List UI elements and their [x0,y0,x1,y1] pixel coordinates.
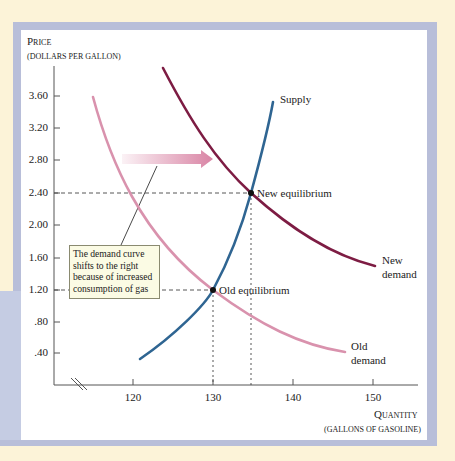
y-axis-title: Price [27,35,51,47]
axis-break-icon [71,378,87,390]
old-demand-label-line1: Old [351,339,386,353]
old-demand-label-line2: demand [351,353,386,367]
old-demand-label: Old demand [351,339,386,367]
x-tick-label: 140 [278,391,308,403]
x-tick-label: 150 [358,391,388,403]
demand-shift-callout: The demand curve shifts to the right bec… [69,245,160,299]
x-tick-label: 130 [198,391,228,403]
x-ticks [133,379,373,385]
old-equilibrium-point [210,287,216,293]
x-tick-label: 120 [118,391,148,403]
y-tick-label: 1.60 [8,251,48,263]
y-tick-label: 2.00 [8,218,48,230]
y-tick-label: 3.60 [8,89,48,101]
x-axis-subtitle: (GALLONS OF GASOLINE) [324,425,421,434]
new-demand-label: New demand [382,253,417,281]
y-tick-label: 1.20 [8,283,48,295]
new-demand-curve [163,68,375,266]
new-equilibrium-label: New equilibrium [257,186,332,200]
shift-right-arrow [122,150,213,168]
y-axis-subtitle: (DOLLARS PER GALLON) [27,52,121,61]
new-demand-label-line1: New [382,253,417,267]
supply-label: Supply [280,92,311,106]
callout-leader-line [121,166,157,245]
y-ticks [54,96,60,353]
y-tick-label: 2.80 [8,153,48,165]
old-equilibrium-label: Old equilibrium [219,283,290,297]
y-tick-label: .40 [8,346,48,358]
x-axis-title: Quantity [374,408,418,420]
new-equilibrium-point [248,190,254,196]
y-tick-label: 3.20 [8,121,48,133]
y-tick-label: 2.40 [8,186,48,198]
y-tick-label: .80 [8,315,48,327]
new-demand-label-line2: demand [382,267,417,281]
